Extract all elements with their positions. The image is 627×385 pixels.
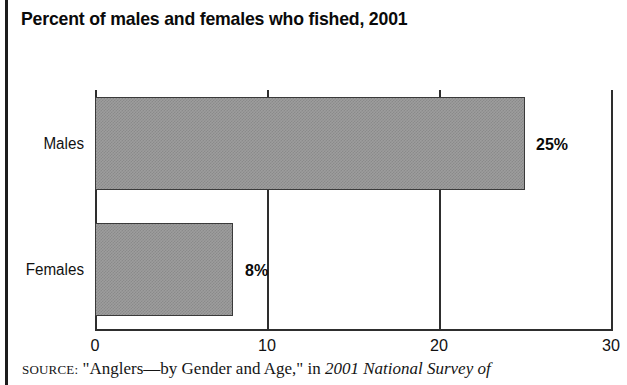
value-label-males: 25% — [536, 135, 568, 155]
x-tick-label-20: 20 — [420, 336, 458, 356]
source-note-label: SOURCE: — [22, 362, 78, 377]
chart-plot-area: Males Females 25% 8% 0 10 20 30 — [0, 0, 627, 340]
x-axis-line — [95, 329, 612, 331]
value-label-females: 8% — [245, 261, 268, 281]
bar-males — [95, 97, 525, 190]
category-label-females: Females — [16, 261, 84, 279]
category-label-males: Males — [16, 135, 84, 153]
x-tick-label-0: 0 — [76, 336, 114, 356]
gridline-30 — [611, 90, 613, 331]
source-note-citation: "Anglers—by Gender and Age," in — [78, 359, 325, 378]
x-tick-label-30: 30 — [592, 336, 627, 356]
source-note-publication: 2001 National Survey of — [325, 359, 491, 378]
x-tick-label-10: 10 — [248, 336, 286, 356]
bar-females — [95, 223, 233, 316]
source-note: SOURCE: "Anglers—by Gender and Age," in … — [22, 358, 622, 381]
